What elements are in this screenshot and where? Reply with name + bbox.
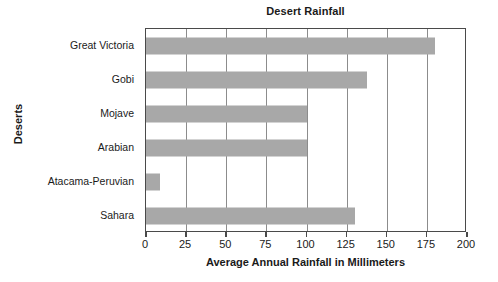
x-tick-label: 175	[417, 238, 435, 250]
x-tick-label: 75	[259, 238, 271, 250]
tick-mark-200	[466, 232, 468, 237]
category-label: Gobi	[112, 73, 134, 85]
tick-mark-25	[185, 232, 187, 237]
x-axis-tick-labels: 0255075100125150175200	[145, 238, 466, 252]
tick-mark-100	[306, 232, 308, 237]
desert-rainfall-chart: Desert Rainfall Deserts Great VictoriaGo…	[0, 0, 498, 282]
x-tick-label: 50	[219, 238, 231, 250]
bar	[146, 38, 435, 55]
plot-area	[145, 28, 466, 232]
category-label: Sahara	[100, 209, 134, 221]
tick-mark-50	[225, 232, 227, 237]
chart-title: Desert Rainfall	[145, 4, 466, 18]
tick-mark-150	[386, 232, 388, 237]
tick-mark-0	[145, 232, 147, 237]
bar	[146, 140, 307, 157]
tick-mark-175	[426, 232, 428, 237]
bars-layer	[146, 29, 465, 231]
x-tick-label: 125	[336, 238, 354, 250]
bar	[146, 174, 160, 191]
x-axis-title: Average Annual Rainfall in Millimeters	[145, 256, 466, 268]
tick-mark-75	[265, 232, 267, 237]
bar	[146, 72, 367, 89]
x-tick-label: 100	[296, 238, 314, 250]
x-tick-label: 25	[179, 238, 191, 250]
category-label: Arabian	[98, 141, 134, 153]
category-label: Mojave	[100, 107, 134, 119]
category-label: Great Victoria	[70, 39, 134, 51]
x-tick-label: 0	[142, 238, 148, 250]
x-tick-label: 200	[457, 238, 475, 250]
bar	[146, 208, 355, 225]
x-tick-label: 150	[377, 238, 395, 250]
tick-mark-125	[346, 232, 348, 237]
category-label-list: Great VictoriaGobiMojaveArabianAtacama-P…	[0, 28, 140, 232]
bar	[146, 106, 307, 123]
category-label: Atacama-Peruvian	[48, 175, 134, 187]
